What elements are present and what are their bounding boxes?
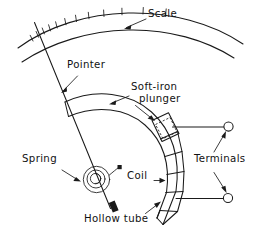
terminal-post-bottom[interactable] bbox=[223, 193, 232, 202]
scale-inner-arc bbox=[22, 30, 234, 62]
pointer-needle bbox=[35, 23, 111, 209]
scale-leader bbox=[124, 19, 146, 30]
hollow-tube-bottom-cap bbox=[157, 218, 163, 225]
coil-segment-divider bbox=[166, 192, 183, 193]
coil-bottom-inner bbox=[157, 211, 160, 219]
hollow-tube-leader bbox=[146, 202, 162, 214]
label-pointer: Pointer bbox=[67, 59, 105, 71]
diagram-canvas: Scale Pointer Soft-iron plunger Terminal… bbox=[0, 0, 255, 241]
hollow-tube-outer-wall bbox=[65, 94, 177, 225]
scale-group bbox=[18, 8, 243, 63]
label-coil: Coil bbox=[127, 170, 147, 182]
label-spring: Spring bbox=[22, 153, 57, 165]
terminals-leader-arrowhead-bottom bbox=[221, 186, 226, 193]
label-soft-iron-line1: Soft-iron bbox=[131, 81, 177, 92]
pointer-leader bbox=[61, 76, 78, 93]
plunger-leader-arrowhead-upper bbox=[109, 100, 116, 105]
label-terminals: Terminals bbox=[194, 153, 246, 165]
hollow-tube-leader-arrowhead bbox=[154, 202, 161, 209]
coil-leader bbox=[154, 178, 166, 183]
coil-segment-divider bbox=[167, 172, 184, 175]
hollow-tube-inner-wall bbox=[69, 110, 168, 218]
label-soft-iron-line2: plunger bbox=[139, 93, 181, 105]
coil-leader-arrowhead bbox=[160, 178, 166, 183]
terminal-post-top[interactable] bbox=[224, 122, 233, 131]
label-hollow-tube: Hollow tube bbox=[84, 213, 148, 225]
spring-leader bbox=[62, 170, 81, 182]
label-scale: Scale bbox=[148, 8, 177, 20]
hollow-tube-group bbox=[65, 94, 177, 225]
scale-leader-arrowhead bbox=[124, 25, 131, 30]
pointer-group bbox=[35, 23, 119, 213]
label-soft-iron-plunger: Soft-iron plunger bbox=[131, 81, 201, 105]
coil-segment-divider bbox=[160, 211, 178, 212]
coil-segment-divider bbox=[165, 152, 182, 157]
scale-ticks bbox=[30, 8, 166, 42]
spring-outer-lead bbox=[109, 168, 118, 175]
spring-anchor-stud bbox=[118, 165, 122, 169]
diagram-vector-layer bbox=[0, 0, 255, 241]
